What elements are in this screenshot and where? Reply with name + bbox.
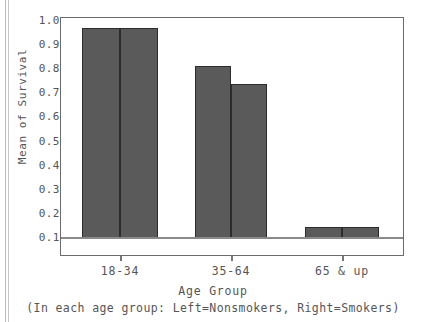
x-tick-mark bbox=[120, 256, 122, 261]
x-axis-note: (In each age group: Left=Nonsmokers, Rig… bbox=[0, 301, 426, 315]
y-tick-label: 0.2 bbox=[26, 208, 60, 219]
plot-area bbox=[61, 21, 403, 238]
y-tick-label: 0.3 bbox=[26, 184, 60, 195]
y-tick-label: 0.5 bbox=[26, 136, 60, 147]
baseline-axis-line bbox=[61, 237, 403, 239]
bar-35-64-nonsmokers bbox=[195, 66, 231, 238]
x-tick-label: 65 & up bbox=[282, 264, 402, 278]
bar-18-34-nonsmokers bbox=[82, 28, 120, 238]
x-tick-label: 18-34 bbox=[60, 264, 180, 278]
bar-18-34-smokers bbox=[120, 28, 158, 238]
y-axis: 1.00.90.80.70.60.50.40.30.20.1 bbox=[0, 0, 60, 322]
y-tick-label: 0.9 bbox=[26, 39, 60, 50]
y-tick-label: 0.6 bbox=[26, 111, 60, 122]
y-tick-label: 1.0 bbox=[26, 15, 60, 26]
x-tick-mark bbox=[231, 256, 233, 261]
y-tick-label: 0.8 bbox=[26, 63, 60, 74]
y-tick-label: 0.4 bbox=[26, 160, 60, 171]
bar-35-64-smokers bbox=[231, 84, 267, 238]
x-tick-mark bbox=[342, 256, 344, 261]
x-axis-title: Age Group bbox=[0, 284, 426, 298]
x-tick-label: 35-64 bbox=[171, 264, 291, 278]
y-tick-label: 0.1 bbox=[26, 232, 60, 243]
y-tick-label: 0.7 bbox=[26, 87, 60, 98]
bar-chart-figure: Mean of Survival 1.00.90.80.70.60.50.40.… bbox=[0, 0, 426, 322]
